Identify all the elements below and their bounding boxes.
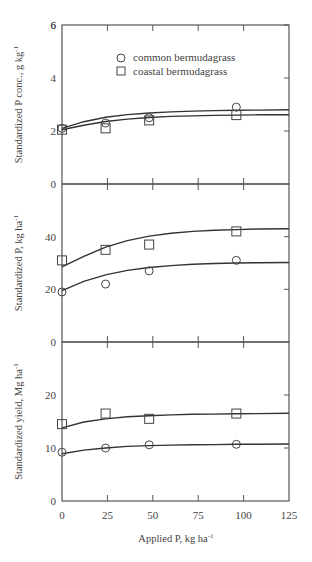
fit-line — [62, 263, 289, 291]
x-tick-label: 75 — [193, 509, 205, 521]
y-tick-label: 2 — [51, 125, 57, 137]
y-tick-label: 4 — [51, 72, 57, 84]
legend: common bermudagrass coastal bermudagrass — [117, 51, 235, 77]
y-tick-label: 20 — [45, 389, 57, 401]
x-axis-title: Applied P, kg ha-1 — [138, 532, 214, 544]
data-point-circle — [102, 280, 110, 288]
x-tick-label: 125 — [281, 509, 298, 521]
chart-figure: 02466Standardized P conc., g kg-102040St… — [0, 0, 312, 562]
data-point-square — [232, 227, 241, 236]
x-tick-label: 100 — [235, 509, 252, 521]
fit-line — [62, 413, 289, 428]
y-tick-label: 40 — [45, 231, 57, 243]
plot-frame — [62, 25, 289, 184]
plot-frame — [62, 342, 289, 501]
panel-3: 01020Standardized yield, Mg ha-102550751… — [12, 342, 298, 521]
panel-1: 02466Standardized P conc., g kg-1 — [12, 19, 289, 190]
data-point-square — [145, 240, 154, 249]
data-point-square — [101, 409, 110, 418]
y-tick-label: 0 — [51, 495, 57, 507]
y-tick-label: 20 — [45, 283, 57, 295]
y-tick-label: 10 — [45, 442, 57, 454]
y-tick-label: 0 — [51, 336, 57, 348]
y-axis-title: Standardized P conc., g kg-1 — [12, 45, 24, 163]
legend-label-common: common bermudagrass — [133, 51, 235, 63]
x-tick-label: 25 — [102, 509, 114, 521]
y-axis-title: Standardized P, kg ha-1 — [12, 214, 24, 311]
chart-panels: 02466Standardized P conc., g kg-102040St… — [12, 19, 298, 521]
x-tick-label: 0 — [59, 509, 65, 521]
panel-2: 02040Standardized P, kg ha-1 — [12, 184, 289, 348]
fit-line — [62, 115, 289, 130]
legend-label-coastal: coastal bermudagrass — [133, 65, 227, 77]
legend-square-icon — [117, 67, 125, 75]
data-point-circle — [102, 119, 110, 127]
y-axis-title: Standardized yield, Mg ha-1 — [12, 363, 24, 480]
y-tick-label: 0 — [51, 178, 57, 190]
fit-line — [62, 110, 289, 129]
legend-circle-icon — [117, 54, 125, 62]
data-point-circle — [145, 441, 153, 449]
x-tick-label: 50 — [147, 509, 159, 521]
fit-line — [62, 229, 289, 267]
fit-line — [62, 444, 289, 454]
y-tick-label: 6 — [51, 19, 57, 31]
